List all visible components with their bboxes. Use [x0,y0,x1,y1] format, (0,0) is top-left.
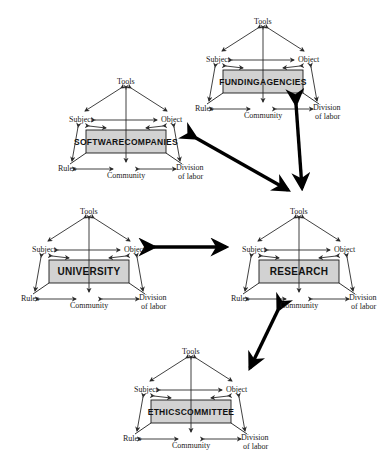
label-division-of-labor-2: of labor [141,302,166,311]
label-division-of-labor: Division [349,293,377,302]
label-tools: Tools [80,207,98,216]
arrow-subject-rules [35,257,41,291]
label-object: Object [334,245,355,254]
arrow-tools-object [304,218,340,241]
label-subject: Subject [206,55,230,64]
label-subject: Subject [32,245,56,254]
label-division-of-labor: Division [241,433,269,442]
arrow-object-box [319,256,336,258]
arrow-tools-object [196,358,232,381]
arrow-tools-subject [258,218,294,241]
arrow-subject-rules [137,397,143,431]
arrow-object-division [311,67,317,101]
label-object: Object [161,115,182,124]
arrow-object-box [283,66,300,68]
label-division-of-labor: Division [176,163,204,172]
node-label-ethics-committee: ETHICSCOMMITTEE [151,400,231,423]
label-subject: Subject [69,115,93,124]
arrow-tools-object [131,88,167,111]
arrow-tools-subject [48,218,84,241]
label-division-of-labor-2: of labor [178,172,203,181]
arrow-tools-subject [150,358,186,381]
label-tools: Tools [117,77,135,86]
arrow-subject-box [154,396,171,398]
arrow-tools-object [94,218,130,241]
label-community: Community [280,301,318,310]
label-community: Community [107,171,145,180]
label-rules: Rules [123,434,141,443]
label-subject: Subject [242,245,266,254]
arrow-object-box [109,256,126,258]
arrow-object-box [211,396,228,398]
arrow-subject-box [89,126,106,128]
arrow-object-division [347,257,353,291]
arrow-tools-subject [85,88,121,111]
connector-funding-research[interactable] [296,104,302,188]
arrow-subject-box [52,256,69,258]
connector-research-ethics[interactable] [250,310,278,368]
label-tools: Tools [182,347,200,356]
arrow-object-division [137,257,143,291]
label-rules: Rules [231,294,249,303]
label-rules: Rules [21,294,39,303]
label-object: Object [226,385,247,394]
label-rules: Rules [58,164,76,173]
connector-software-research[interactable] [196,138,288,190]
label-rules: Rules [195,104,213,113]
label-tools: Tools [254,17,272,26]
label-object: Object [298,55,319,64]
label-division-of-labor: Division [139,293,167,302]
label-tools: Tools [290,207,308,216]
label-community: Community [244,111,282,120]
arrow-tools-subject [222,28,258,51]
arrow-tools-object [268,28,304,51]
arrow-subject-box [262,256,279,258]
node-label-research: RESEARCH [259,260,339,283]
label-division-of-labor-2: of labor [351,302,376,311]
arrow-object-division [239,397,245,431]
node-label-software-companies: SOFTWARECOMPANIES [86,130,166,153]
label-community: Community [172,441,210,450]
label-division-of-labor-2: of labor [243,442,268,451]
label-division-of-labor-2: of labor [315,112,340,121]
arrow-object-box [146,126,163,128]
label-object: Object [124,245,145,254]
node-label-university: UNIVERSITY [49,260,129,283]
label-subject: Subject [134,385,158,394]
label-division-of-labor: Division [313,103,341,112]
node-label-funding-agencies: FUNDINGAGENCIES [223,70,303,93]
arrow-subject-box [226,66,243,68]
label-community: Community [70,301,108,310]
arrow-subject-rules [209,67,215,101]
arrow-subject-rules [245,257,251,291]
